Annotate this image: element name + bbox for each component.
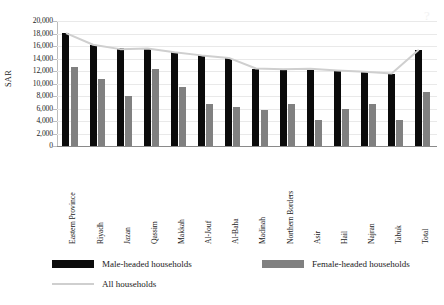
legend-line-swatch-icon	[52, 283, 94, 285]
y-axis-tick-mark	[53, 34, 57, 35]
chart-legend: Male-headed householdsFemale-headed hous…	[0, 256, 444, 304]
x-axis-tick-label: Al-Jouf	[205, 221, 213, 244]
x-axis-tick-label: Northern Borders	[287, 191, 295, 244]
legend-item-label: Male-headed households	[102, 258, 192, 270]
x-axis-tick-label: Makkah	[178, 219, 186, 244]
legend-item-label: All households	[102, 278, 156, 290]
y-axis-tick-mark	[53, 71, 57, 72]
x-axis-tick-label: Tabuk	[395, 225, 403, 244]
y-axis-tick-label: 2,000	[9, 130, 53, 138]
y-axis-tick-label: 8,000	[9, 92, 53, 100]
y-axis-tick-label: 16,000	[9, 42, 53, 50]
y-axis-tick-mark	[53, 96, 57, 97]
y-axis-tick-mark	[53, 146, 57, 147]
all-households-line-series	[57, 21, 437, 146]
x-axis-tick-label: Asir	[314, 231, 322, 244]
x-axis-tick-labels: Eastern ProvinceRiyadhJazanQassimMakkahA…	[57, 148, 437, 248]
all-households-polyline	[66, 33, 419, 73]
legend-item-label: Female-headed households	[312, 258, 410, 270]
x-axis-tick-label: Eastern Province	[69, 193, 77, 245]
y-axis-tick-mark	[53, 121, 57, 122]
x-axis-tick-label: Madinah	[259, 217, 267, 244]
x-axis-tick-label: Najran	[368, 223, 376, 244]
y-axis-tick-mark	[53, 21, 57, 22]
y-axis-tick-mark	[53, 46, 57, 47]
y-axis-tick-label: 12,000	[9, 67, 53, 75]
y-axis-tick-label: 10,000	[9, 80, 53, 88]
y-axis-tick-mark	[53, 109, 57, 110]
y-axis-tick-mark	[53, 134, 57, 135]
y-axis-tick-label: 14,000	[9, 55, 53, 63]
y-axis-tick-mark	[53, 84, 57, 85]
legend-black-square-icon	[52, 260, 94, 268]
y-axis-title: SAR	[4, 59, 13, 99]
legend-gray-square-icon	[262, 260, 304, 268]
x-axis-line	[57, 146, 437, 147]
chart-figure: ? 02,0004,0006,0008,00010,00012,00014,00…	[0, 0, 444, 305]
y-axis-tick-mark	[53, 59, 57, 60]
x-axis-tick-label: Hail	[341, 231, 349, 244]
x-axis-tick-label: Al-Baha	[232, 218, 240, 244]
y-axis-tick-label: 4,000	[9, 117, 53, 125]
x-axis-tick-label: Riyadh	[97, 222, 105, 244]
x-axis-tick-label: Jazan	[124, 227, 132, 244]
plot-area	[57, 21, 437, 146]
y-axis-tick-label: 6,000	[9, 105, 53, 113]
y-axis-tick-label: 0	[9, 142, 53, 150]
x-axis-tick-label: Qassim	[151, 221, 159, 244]
y-axis-tick-label: 18,000	[9, 30, 53, 38]
y-axis-tick-label: 20,000	[9, 17, 53, 25]
x-axis-tick-label: Total	[422, 229, 430, 244]
